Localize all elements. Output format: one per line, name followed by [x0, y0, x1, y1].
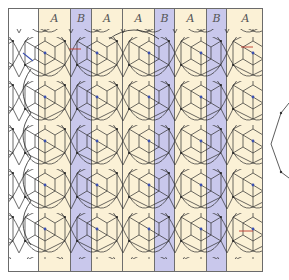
- tiling-pattern: [9, 9, 263, 272]
- tiling-frame: A B A A B A B A: [8, 8, 263, 272]
- side-hexagon-shape: [270, 100, 289, 180]
